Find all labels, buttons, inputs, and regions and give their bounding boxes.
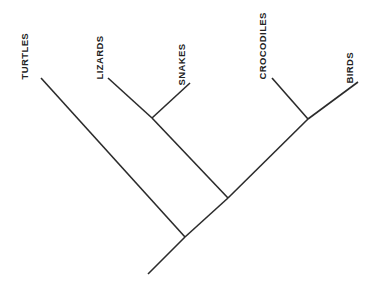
branch-squamates-to-snakes: [152, 83, 190, 118]
branch-root-to-turtles: [41, 78, 185, 237]
taxon-label-snakes: SNAKES: [177, 44, 187, 86]
phylogenetic-tree-canvas: [0, 0, 379, 295]
taxon-label-turtles: TURTLES: [20, 33, 30, 80]
branch-squamates-to-lizards: [108, 78, 152, 118]
branch-middle-to-squamates: [152, 118, 228, 198]
cladogram-diagram: TURTLESLIZARDSSNAKESCROCODILESBIRDS: [0, 0, 379, 295]
branch-middle-to-archosaurs: [228, 119, 308, 198]
taxon-label-birds: BIRDS: [345, 52, 355, 84]
taxon-label-lizards: LIZARDS: [95, 36, 105, 80]
branch-root-stem: [148, 237, 185, 274]
branch-archosaurs-to-crocodiles: [272, 78, 308, 119]
branch-group: [41, 78, 358, 274]
taxon-label-crocodiles: CROCODILES: [258, 12, 268, 79]
branch-archosaurs-to-birds: [308, 82, 358, 119]
branch-root-to-middle: [185, 198, 228, 237]
